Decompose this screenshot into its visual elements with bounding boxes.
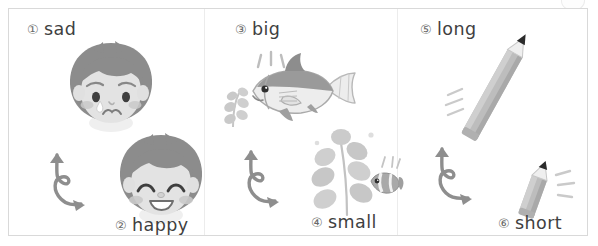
label-sad: ①sad	[27, 19, 76, 39]
word-big: big	[252, 19, 280, 39]
happy-boy-face-icon	[109, 131, 213, 227]
list-number-4: ④	[311, 215, 323, 230]
column-emotions: ①sad	[9, 9, 204, 235]
sad-boy-face-icon	[59, 39, 163, 135]
word-sad: sad	[44, 19, 76, 39]
column-size-fish: ③big	[205, 9, 397, 235]
worksheet-page: ①sad	[0, 0, 598, 246]
worksheet-frame: ①sad	[8, 8, 588, 236]
label-big: ③big	[235, 19, 280, 39]
list-number-6: ⑥	[498, 216, 510, 231]
list-number-2: ②	[115, 218, 127, 233]
small-clownfish-with-seaweed-icon	[309, 127, 405, 219]
double-headed-curly-arrow-icon	[420, 141, 490, 209]
word-short: short	[515, 213, 562, 233]
double-headed-curly-arrow-icon	[35, 147, 101, 213]
list-number-3: ③	[235, 22, 247, 37]
label-happy: ②happy	[115, 215, 188, 235]
big-fish-icon	[223, 49, 363, 129]
list-number-5: ⑤	[420, 22, 432, 37]
long-pencil-icon	[442, 27, 548, 149]
label-small: ④small	[311, 212, 377, 232]
word-small: small	[328, 212, 377, 232]
double-headed-curly-arrow-icon	[229, 144, 295, 210]
label-short: ⑥short	[498, 213, 562, 233]
column-length-pencil: ⑤long	[398, 9, 589, 235]
word-happy: happy	[132, 215, 188, 235]
list-number-1: ①	[27, 22, 39, 37]
